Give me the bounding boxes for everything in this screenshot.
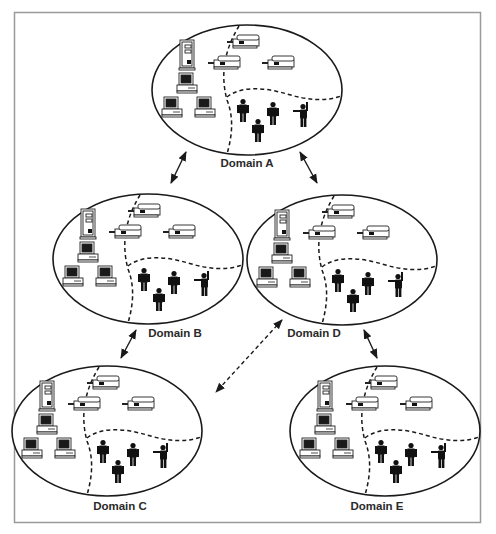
domain-d xyxy=(247,195,437,325)
arrow-d-e xyxy=(364,330,377,358)
domain-e xyxy=(290,366,480,496)
domain-diagram: Domain A Domain B Domain D Domain C Doma… xyxy=(0,0,496,534)
domain-d-network-icon xyxy=(247,195,437,325)
domain-d-label: Domain D xyxy=(287,327,341,339)
domain-e-label: Domain E xyxy=(350,500,403,512)
domain-c-network-icon xyxy=(12,366,202,496)
domain-a-network-icon xyxy=(152,25,342,155)
domain-c-label: Domain C xyxy=(93,500,147,512)
arrow-c-d-dashed xyxy=(216,320,282,392)
arrow-a-b xyxy=(171,152,186,183)
domain-a xyxy=(152,25,342,155)
domain-b-network-icon xyxy=(53,194,243,324)
arrow-a-d xyxy=(300,152,317,183)
domain-c xyxy=(12,366,202,496)
domain-b xyxy=(53,194,243,324)
arrow-b-c xyxy=(121,330,136,358)
domain-a-label: Domain A xyxy=(220,157,273,169)
domain-e-network-icon xyxy=(290,366,480,496)
domain-b-label: Domain B xyxy=(148,327,202,339)
